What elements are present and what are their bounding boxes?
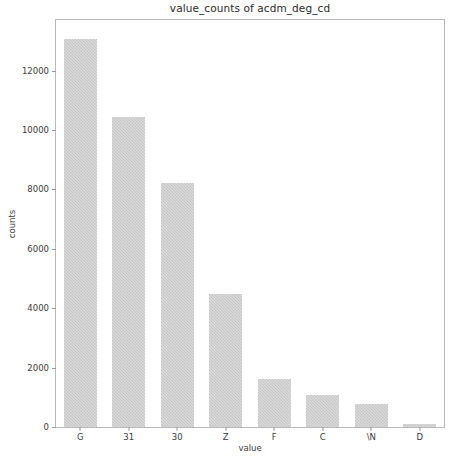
y-axis-tick [52, 368, 56, 369]
bar [306, 395, 339, 427]
bar-slot: 30 [153, 20, 202, 427]
bar-slot: F [250, 20, 299, 427]
bar [112, 117, 145, 427]
plot-area: G3130ZFC\ND 020004000600080001000012000 [56, 20, 444, 427]
y-axis-tick-label: 12000 [22, 66, 49, 76]
y-axis-tick [52, 130, 56, 131]
bar [258, 379, 291, 427]
x-axis-tick [371, 427, 372, 431]
x-axis-tick-label: C [320, 432, 326, 442]
matplotlib-figure: value_counts of acdm_deg_cd counts G3130… [0, 0, 455, 457]
x-axis-tick [177, 427, 178, 431]
x-axis-tick-label: G [77, 432, 84, 442]
y-axis-label: counts [6, 19, 18, 428]
x-axis-tick-label: D [416, 432, 423, 442]
y-axis-tick-label: 0 [44, 422, 49, 432]
x-axis-label: value [55, 443, 445, 453]
y-axis-tick-label: 10000 [22, 125, 49, 135]
x-axis-tick [419, 427, 420, 431]
bar [64, 39, 97, 427]
x-axis-tick-label: F [272, 432, 277, 442]
y-axis-tick-label: 4000 [27, 303, 49, 313]
y-axis-label-text: counts [7, 209, 17, 237]
bar [355, 404, 388, 427]
x-axis-tick [80, 427, 81, 431]
y-axis-tick-label: 6000 [27, 244, 49, 254]
y-axis-tick [52, 71, 56, 72]
y-axis-tick [52, 249, 56, 250]
bar [209, 294, 242, 427]
y-axis-tick-label: 2000 [27, 363, 49, 373]
y-axis-tick [52, 189, 56, 190]
bar-series: G3130ZFC\ND [56, 20, 444, 427]
x-axis-tick-label: 30 [172, 432, 183, 442]
x-axis-tick [225, 427, 226, 431]
bar-slot: \N [347, 20, 396, 427]
y-axis-tick-label: 8000 [27, 184, 49, 194]
y-axis-tick [52, 427, 56, 428]
bar-slot: Z [202, 20, 251, 427]
x-axis-tick [274, 427, 275, 431]
plot-frame: G3130ZFC\ND 020004000600080001000012000 [55, 19, 445, 428]
bar-slot: C [299, 20, 348, 427]
bar-slot: 31 [105, 20, 154, 427]
x-axis-tick [128, 427, 129, 431]
x-axis-tick-label: 31 [123, 432, 134, 442]
chart-title: value_counts of acdm_deg_cd [55, 2, 445, 14]
x-axis-tick [322, 427, 323, 431]
x-axis-tick-label: Z [223, 432, 229, 442]
bar-slot: D [396, 20, 445, 427]
x-axis-tick-label: \N [367, 432, 376, 442]
bar [161, 183, 194, 427]
bar-slot: G [56, 20, 105, 427]
y-axis-tick [52, 308, 56, 309]
